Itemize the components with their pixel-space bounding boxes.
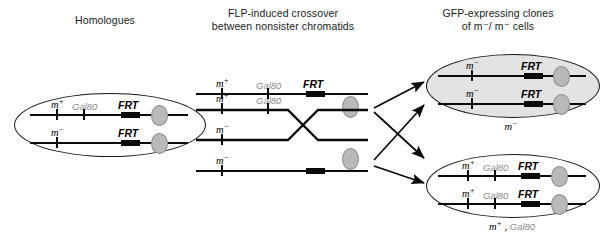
cell-gfp-clone-mutant: [426, 54, 600, 118]
rb-chrom1-centromere: [551, 166, 568, 187]
mid-chromatid2-tick-gal80: [267, 103, 269, 114]
panel-title-homologues: Homologues: [30, 14, 180, 27]
mid-chromatid1-frt-label: FRT: [303, 78, 323, 90]
rb-chrom1-frt-label: FRT: [518, 160, 538, 172]
figure-canvas: Homologues FLP-induced crossover between…: [0, 0, 612, 244]
rb-chrom2-tick-m: [467, 198, 469, 209]
rt-chrom1-tick-m: [471, 70, 473, 81]
mid-centromere-bottom: [342, 148, 359, 170]
rb-chrom1-gal80-label: Gal80: [483, 162, 508, 173]
left-chrom1-tick-gal80: [83, 109, 85, 120]
mid-chromatid2-gal80-label: Gal80: [256, 95, 281, 106]
mid-chromatid1-gal80-label: Gal80: [256, 80, 281, 91]
panel-title-flp-crossover: FLP-induced crossover between nonsister …: [188, 7, 378, 32]
rt-chrom2-frt-site: [524, 101, 543, 107]
mid-chromatid4-frt-site: [306, 168, 325, 174]
rt-chrom1-frt-label: FRT: [521, 60, 541, 72]
rb-chrom1-tick-m: [467, 170, 469, 181]
left-chrom1-frt-label: FRT: [118, 99, 138, 111]
caption-wildtype-clone: m+ , Gal80: [452, 221, 572, 232]
left-chrom2-tick-m: [56, 137, 58, 148]
rt-chrom1-frt-site: [524, 73, 543, 79]
cell-homologues: [14, 93, 206, 157]
left-chrom1-gal80-label: Gal80: [72, 101, 97, 112]
rb-chrom2-frt-site: [521, 201, 540, 207]
arrow-bottom-to-upper-cell: [374, 105, 424, 160]
mid-chromatid3-tick-m: [221, 134, 223, 145]
left-chrom1-tick-m: [56, 109, 58, 120]
rb-chrom1-frt-site: [521, 173, 540, 179]
rb-chrom2-tick-gal80: [494, 198, 496, 209]
panel-title-gfp-clones: GFP-expressing clones of m⁻/ m⁻ cells: [398, 7, 598, 32]
left-chrom2-frt-site: [121, 140, 140, 146]
mid-chromatid4-tick-m: [221, 165, 223, 176]
cell-nonclone-wildtype: [426, 154, 600, 218]
left-chrom1-frt-site: [121, 112, 140, 118]
left-chrom2-frt-label: FRT: [118, 127, 138, 139]
mid-chromatid2-tick-m: [221, 103, 223, 114]
rb-chrom2-frt-label: FRT: [518, 188, 538, 200]
left-chrom1-centromere: [151, 105, 168, 126]
arrow-bottom-to-lower-cell: [374, 166, 424, 183]
rt-chrom2-frt-label: FRT: [521, 88, 541, 100]
mid-centromere-top: [342, 96, 359, 118]
mid-chromatid1-frt-site: [306, 91, 325, 97]
rt-chrom2-tick-m: [471, 98, 473, 109]
rb-chrom1-tick-gal80: [494, 170, 496, 181]
left-chrom2-centromere: [151, 133, 168, 154]
rt-chrom1-centromere: [553, 66, 570, 87]
caption-mutant-clone: m−: [466, 121, 556, 132]
rt-chrom2-centromere: [553, 94, 570, 115]
rb-chrom2-gal80-label: Gal80: [483, 190, 508, 201]
rb-chrom2-centromere: [551, 194, 568, 215]
arrow-top-to-lower-cell: [374, 112, 424, 158]
arrow-top-to-upper-cell: [374, 82, 424, 108]
